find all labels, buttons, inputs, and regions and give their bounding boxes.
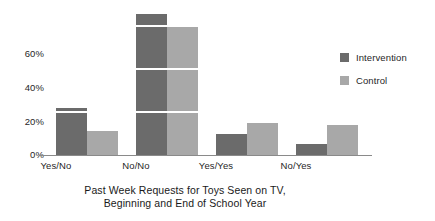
x-axis-title-line-2: Beginning and End of School Year: [40, 197, 330, 210]
y-tick-label-40: 40%: [4, 83, 44, 93]
legend-item-control: Control: [340, 75, 407, 86]
x-axis-line: [40, 155, 372, 156]
bar-chart: 0% 20% 40% 60% Yes/No No/N: [0, 0, 435, 221]
bar-intervention-no-yes: [296, 144, 327, 155]
bar-intervention-yes-no: [56, 108, 87, 155]
y-tick-label-20: 20%: [4, 117, 44, 127]
bar-control-yes-yes: [247, 123, 278, 155]
y-axis-tick-labels: 0% 20% 40% 60%: [0, 0, 44, 221]
x-tick-label-no-no: No/No: [91, 160, 181, 172]
legend-swatch-control-icon: [340, 76, 349, 85]
bar-intervention-yes-yes: [216, 134, 247, 155]
bar-control-no-no: [167, 26, 198, 155]
legend-label-intervention: Intervention: [356, 52, 407, 63]
bar-intervention-no-no: [136, 14, 167, 155]
bar-control-no-yes: [327, 125, 358, 155]
x-axis-title-line-1: Past Week Requests for Toys Seen on TV,: [40, 184, 330, 197]
bar-group-yes-yes: [216, 5, 278, 155]
bar-group-no-no: [136, 5, 198, 155]
x-axis-title: Past Week Requests for Toys Seen on TV, …: [40, 184, 330, 210]
legend-label-control: Control: [356, 75, 387, 86]
bar-control-yes-no: [87, 131, 118, 155]
y-tick-label-0: 0%: [4, 150, 44, 160]
legend-swatch-intervention-icon: [340, 53, 349, 62]
plot-area: [48, 5, 370, 155]
legend-item-intervention: Intervention: [340, 52, 407, 63]
x-tick-label-no-yes: No/Yes: [251, 160, 341, 172]
y-tick-label-60: 60%: [4, 49, 44, 59]
chart-legend: Intervention Control: [340, 52, 407, 98]
x-tick-label-yes-no: Yes/No: [11, 160, 101, 172]
bar-group-yes-no: [56, 5, 118, 155]
x-tick-label-yes-yes: Yes/Yes: [171, 160, 261, 172]
